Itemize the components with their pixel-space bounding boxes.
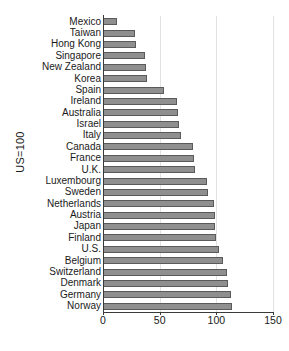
- bar: [103, 200, 214, 207]
- bar: [103, 132, 181, 139]
- category-label: Korea: [74, 74, 101, 84]
- bar-row: [103, 221, 273, 232]
- bar: [103, 269, 227, 276]
- category-label-row: Taiwan: [36, 27, 101, 38]
- category-label: Australia: [62, 108, 101, 118]
- bar: [103, 234, 216, 241]
- bar-row: [103, 266, 273, 277]
- category-label: Canada: [66, 142, 101, 152]
- bar: [103, 212, 215, 219]
- category-label: Austria: [70, 210, 101, 220]
- category-label-row: Denmark: [36, 278, 101, 289]
- category-label: Israel: [77, 119, 101, 129]
- category-label: France: [70, 153, 101, 163]
- bar: [103, 178, 207, 185]
- x-tick-label: 50: [154, 314, 166, 326]
- bar: [103, 75, 147, 82]
- category-label: Sweden: [65, 187, 101, 197]
- bar: [103, 155, 194, 162]
- category-label-row: Ireland: [36, 96, 101, 107]
- bar: [103, 41, 136, 48]
- y-axis-title: US=100: [14, 90, 26, 214]
- category-label-row: Mexico: [36, 16, 101, 27]
- bar-chart: US=100 MexicoTaiwanHong KongSingaporeNew…: [0, 0, 289, 351]
- bar-row: [103, 164, 273, 175]
- bar-row: [103, 141, 273, 152]
- bar-row: [103, 107, 273, 118]
- bar: [103, 257, 223, 264]
- bar-row: [103, 50, 273, 61]
- bar-row: [103, 84, 273, 95]
- category-label: Denmark: [60, 278, 101, 288]
- category-label: Italy: [83, 130, 101, 140]
- bar-row: [103, 198, 273, 209]
- bar-row: [103, 300, 273, 311]
- x-tick-label: 0: [100, 314, 106, 326]
- bar: [103, 121, 179, 128]
- x-tick-label: 100: [208, 314, 226, 326]
- category-label-column: MexicoTaiwanHong KongSingaporeNew Zealan…: [36, 16, 101, 312]
- bar-row: [103, 232, 273, 243]
- category-label: Hong Kong: [51, 39, 101, 49]
- bar-row: [103, 209, 273, 220]
- category-label-row: Norway: [36, 300, 101, 311]
- category-label: Switzerland: [49, 267, 101, 277]
- category-label-row: Switzerland: [36, 266, 101, 277]
- category-label: Germany: [60, 290, 101, 300]
- category-label-row: U.K.: [36, 164, 101, 175]
- bar: [103, 303, 232, 310]
- category-label: Belgium: [65, 256, 101, 266]
- bar-row: [103, 62, 273, 73]
- category-label: U.S.: [82, 244, 101, 254]
- category-label-row: Sweden: [36, 187, 101, 198]
- bar: [103, 30, 135, 37]
- bar: [103, 166, 195, 173]
- category-label: Mexico: [69, 17, 101, 27]
- category-label-row: Italy: [36, 130, 101, 141]
- category-label-row: Netherlands: [36, 198, 101, 209]
- bar: [103, 109, 178, 116]
- category-label-row: Spain: [36, 84, 101, 95]
- category-label-row: Israel: [36, 118, 101, 129]
- category-label-row: Austria: [36, 209, 101, 220]
- category-label: Ireland: [70, 96, 101, 106]
- bar-row: [103, 130, 273, 141]
- bar: [103, 189, 208, 196]
- bar: [103, 143, 193, 150]
- y-axis-spine: [103, 15, 104, 313]
- category-label: Finland: [68, 233, 101, 243]
- category-label: Luxembourg: [45, 176, 101, 186]
- category-label-row: Luxembourg: [36, 175, 101, 186]
- category-label-row: Germany: [36, 289, 101, 300]
- bar-row: [103, 16, 273, 27]
- bar: [103, 64, 146, 71]
- category-label-row: Belgium: [36, 255, 101, 266]
- bar-row: [103, 118, 273, 129]
- category-label-row: Japan: [36, 221, 101, 232]
- bar: [103, 52, 145, 59]
- bar: [103, 280, 228, 287]
- bar: [103, 98, 177, 105]
- x-axis-spine: [103, 312, 273, 313]
- bar-row: [103, 39, 273, 50]
- category-label-row: France: [36, 153, 101, 164]
- category-label: Japan: [74, 221, 101, 231]
- category-label: Norway: [67, 301, 101, 311]
- bar-row: [103, 289, 273, 300]
- category-label: Netherlands: [47, 199, 101, 209]
- bar-row: [103, 278, 273, 289]
- category-label: U.K.: [82, 165, 101, 175]
- bar-row: [103, 187, 273, 198]
- category-label-row: Finland: [36, 232, 101, 243]
- category-label: New Zealand: [42, 62, 101, 72]
- bar: [103, 18, 117, 25]
- category-label-row: Canada: [36, 141, 101, 152]
- category-label-row: Hong Kong: [36, 39, 101, 50]
- bar-row: [103, 255, 273, 266]
- gridline-150: [273, 16, 274, 312]
- category-label: Taiwan: [70, 28, 101, 38]
- bar-row: [103, 244, 273, 255]
- bar: [103, 223, 215, 230]
- bar-row: [103, 175, 273, 186]
- bar: [103, 87, 164, 94]
